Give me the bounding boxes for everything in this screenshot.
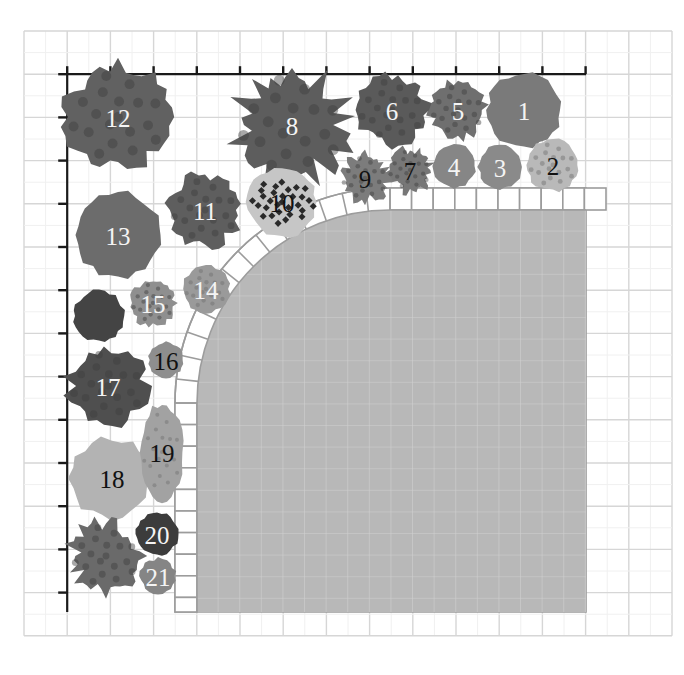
garden-plan: 123456789101112131415161718192021 (0, 0, 684, 675)
plant-number-label: 5 (452, 98, 465, 125)
plant-number-label: 3 (494, 155, 507, 182)
plant-11: 11 (165, 172, 241, 250)
plant-number-label: 17 (96, 374, 121, 401)
plant-17: 17 (63, 347, 152, 428)
plant-number-label: 13 (106, 223, 131, 250)
plant-number-label: 14 (194, 277, 220, 304)
plant-number-label: 21 (146, 564, 171, 591)
plant-number-label: 8 (286, 113, 299, 140)
plant-3: 3 (477, 145, 522, 190)
plant-number-label: 16 (154, 348, 179, 375)
plant-number-label: 18 (100, 466, 125, 493)
plant-number-label: 2 (547, 153, 560, 180)
plant-number-label: 20 (145, 522, 170, 549)
plant-21: 21 (139, 557, 176, 594)
plant-number-label: 6 (386, 98, 399, 125)
plant-15: 15 (130, 281, 178, 327)
plant-number-label: 12 (106, 105, 131, 132)
plant-number-label: 4 (448, 154, 461, 181)
plant-1: 1 (486, 72, 561, 148)
plant-8: 8 (227, 68, 356, 187)
plant-unlabeled-20 (65, 516, 148, 598)
plant-6: 6 (356, 72, 432, 150)
plant-number-label: 9 (359, 166, 372, 193)
plant-18: 18 (68, 437, 153, 522)
plant-number-label: 7 (404, 158, 417, 185)
plant-5: 5 (426, 79, 489, 142)
plant-number-label: 1 (518, 98, 531, 125)
plant-16: 16 (148, 341, 183, 378)
plant-number-label: 11 (193, 198, 217, 225)
patio (175, 188, 606, 612)
plant-number-label: 15 (141, 291, 166, 318)
plant-number-label: 10 (270, 190, 295, 217)
plant-number-label: 19 (150, 440, 175, 467)
